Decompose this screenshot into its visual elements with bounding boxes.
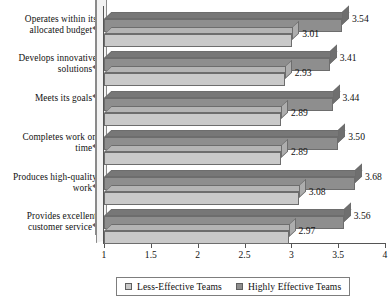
bar-top-face	[104, 170, 363, 177]
bar-front-face	[104, 113, 281, 126]
legend-label: Highly Effective Teams	[248, 281, 341, 292]
legend-swatch-icon	[236, 283, 243, 290]
axis-tick-label: 2	[195, 249, 200, 260]
bar-value-label: 3.50	[348, 131, 365, 142]
axis-tick-label: 1.5	[145, 249, 157, 260]
bar-value-label: 2.89	[291, 107, 308, 118]
axis-tick-label: 1	[102, 249, 107, 260]
category-label: Operates within its allocated budget*	[25, 14, 97, 36]
bar-value-label: 3.68	[365, 171, 382, 182]
bar-top-face	[104, 27, 300, 34]
category-axis-labels: Operates within its allocated budget*Dev…	[0, 0, 100, 243]
bar-value-label: 3.08	[309, 186, 326, 197]
bar-top-face	[104, 185, 306, 192]
bar-front-face	[104, 192, 299, 205]
bar-front-face	[104, 73, 285, 86]
axis-tick	[338, 243, 339, 248]
value-axis-back-line	[95, 0, 96, 235]
category-label: Produces high-quality work*	[13, 172, 97, 194]
bar-value-label: 2.93	[295, 67, 312, 78]
bar-light: 3.08	[104, 192, 299, 205]
axis-tick	[385, 243, 386, 248]
category-label: Provides excellent customer service*	[27, 211, 97, 233]
bar-value-label: 3.54	[352, 13, 369, 24]
bar-top-face	[104, 130, 346, 137]
category-label: Completes work on time*	[22, 132, 97, 154]
legend-label: Less-Effective Teams	[137, 281, 222, 292]
bar-top-face	[104, 209, 351, 216]
plot-area: 11.522.533.54 3.543.013.412.933.442.893.…	[104, 6, 385, 243]
bar-top-face	[104, 91, 340, 98]
bar-light: 2.93	[104, 73, 285, 86]
bar-front-face	[104, 152, 281, 165]
bar-top-face	[104, 106, 289, 113]
bar-value-label: 3.41	[340, 52, 357, 63]
bar-end-cap	[338, 124, 345, 144]
bar-chart: Operates within its allocated budget*Dev…	[0, 0, 392, 301]
axis-tick-label: 3.5	[332, 249, 344, 260]
axis-tick-label: 4	[383, 249, 388, 260]
bar-end-cap	[355, 163, 362, 183]
bar-value-label: 3.44	[343, 92, 360, 103]
category-label: Develops innovative solutions*	[18, 53, 97, 75]
bar-value-label: 3.56	[354, 210, 371, 221]
bar-light: 2.89	[104, 113, 281, 126]
legend-item-highly-effective: Highly Effective Teams	[236, 281, 341, 292]
chart-legend: Less-Effective Teams Highly Effective Te…	[116, 277, 350, 296]
bar-light: 3.01	[104, 34, 292, 47]
axis-tick	[291, 243, 292, 248]
bar-end-cap	[342, 5, 349, 25]
bar-end-cap	[344, 203, 351, 223]
axis-tick-label: 3	[289, 249, 294, 260]
category-label: Meets its goals*	[35, 93, 97, 104]
bar-light: 2.97	[104, 231, 289, 244]
bar-value-label: 2.89	[291, 146, 308, 157]
bar-front-face	[104, 231, 289, 244]
axis-tick-label: 2.5	[239, 249, 251, 260]
bar-top-face	[104, 51, 337, 58]
bar-top-face	[104, 12, 349, 19]
bar-top-face	[104, 224, 296, 231]
bar-top-face	[104, 145, 289, 152]
bar-value-label: 2.97	[299, 225, 316, 236]
legend-swatch-icon	[125, 283, 132, 290]
bar-light: 2.89	[104, 152, 281, 165]
bar-end-cap	[330, 45, 337, 65]
legend-item-less-effective: Less-Effective Teams	[125, 281, 222, 292]
bar-end-cap	[333, 84, 340, 104]
bar-front-face	[104, 34, 292, 47]
bar-top-face	[104, 66, 292, 73]
bar-value-label: 3.01	[302, 28, 319, 39]
